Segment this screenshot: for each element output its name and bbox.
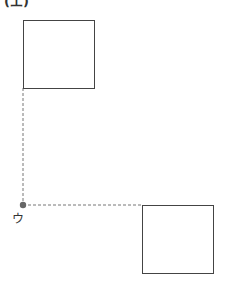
square-bottom-right [142, 205, 214, 274]
point-label: ウ [12, 209, 24, 226]
point-marker [20, 202, 26, 208]
square-top-left [23, 20, 95, 89]
